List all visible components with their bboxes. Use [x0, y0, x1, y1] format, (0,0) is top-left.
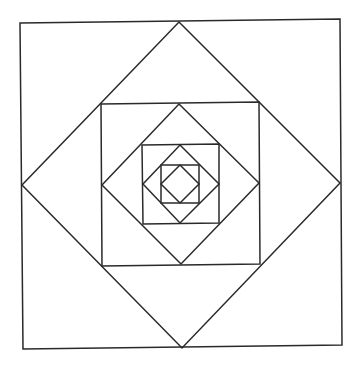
outer-square: [20, 19, 342, 349]
third-square: [142, 144, 219, 224]
inner-diamond: [161, 165, 199, 203]
diagram-canvas: [0, 0, 356, 368]
nested-squares-diagram: [0, 0, 356, 368]
second-square: [101, 102, 260, 266]
third-diamond: [143, 145, 219, 223]
second-diamond: [102, 104, 259, 264]
fourth-square: [161, 165, 199, 203]
outer-diamond: [22, 22, 340, 348]
